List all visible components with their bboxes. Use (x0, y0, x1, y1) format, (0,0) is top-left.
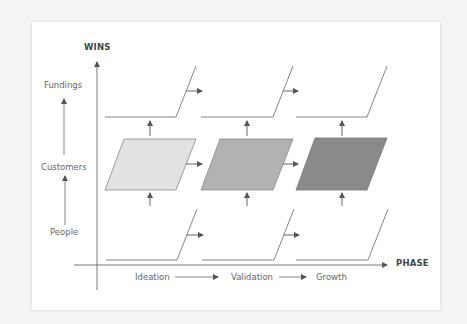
phase-plane-ideation (105, 139, 196, 190)
phase-label-growth: Growth (316, 272, 347, 282)
phase-plane-validation (201, 139, 293, 190)
level-label-fundings: Fundings (44, 80, 82, 90)
fundings-row (105, 66, 387, 117)
phase-plane-growth (296, 138, 387, 190)
x-axis-title: PHASE (396, 258, 429, 268)
level-label-people: People (50, 227, 78, 237)
level-label-customers: Customers (41, 162, 87, 172)
phase-label-ideation: Ideation (135, 272, 170, 282)
phase-label-validation: Validation (231, 272, 273, 282)
people-row (106, 209, 388, 260)
y-axis-title: WINS (84, 42, 111, 52)
customers-row (105, 138, 387, 190)
